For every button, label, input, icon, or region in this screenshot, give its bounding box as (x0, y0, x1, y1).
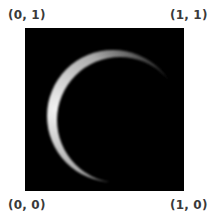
crescent-fade (25, 28, 184, 191)
corner-label-top-left: (0, 1) (8, 8, 46, 22)
image-canvas (25, 28, 184, 191)
corner-label-bottom-left: (0, 0) (8, 198, 46, 212)
crescent-group (25, 28, 184, 191)
corner-label-top-right: (1, 1) (170, 8, 208, 22)
corner-label-bottom-right: (1, 0) (170, 198, 208, 212)
crescent-svg (25, 28, 184, 191)
